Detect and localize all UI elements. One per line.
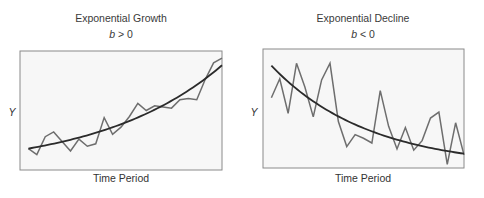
decline-chart: Exponential Declineb < 0YTime Period	[250, 12, 464, 184]
growth-chart: Exponential Growthb > 0YTime Period	[8, 12, 222, 184]
chart-subtitle: b > 0	[109, 28, 133, 40]
y-axis-label: Y	[250, 106, 258, 118]
x-axis-label: Time Period	[335, 172, 391, 184]
subtitle-condition: > 0	[115, 28, 133, 40]
subtitle-condition: < 0	[357, 28, 375, 40]
plot-area	[20, 51, 222, 170]
chart-title: Exponential Growth	[75, 12, 167, 24]
plot-area	[263, 49, 464, 168]
y-axis-label: Y	[8, 106, 16, 118]
x-axis-label: Time Period	[93, 172, 149, 184]
chart-subtitle: b < 0	[351, 28, 375, 40]
exponential-charts: Exponential Growthb > 0YTime PeriodExpon…	[0, 0, 484, 198]
chart-title: Exponential Decline	[317, 12, 410, 24]
